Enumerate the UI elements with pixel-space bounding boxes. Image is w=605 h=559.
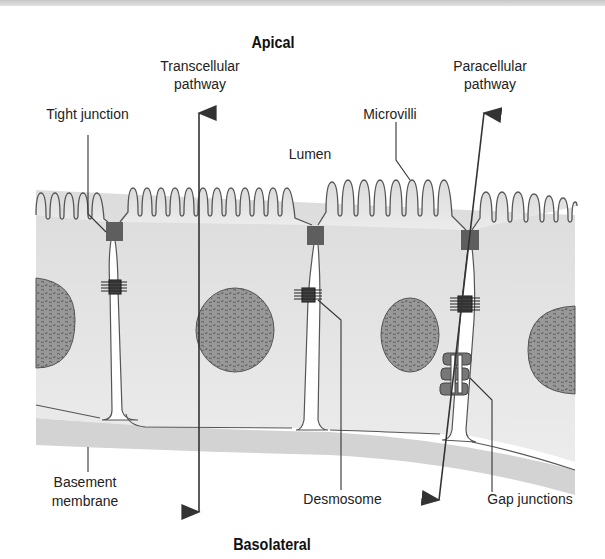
label-paracellular-1: Paracellular	[436, 57, 544, 75]
label-lumen: Lumen	[274, 145, 346, 163]
label-transcellular-1: Transcellular	[146, 57, 254, 75]
label-microvilli: Microvilli	[345, 105, 435, 123]
label-gap-junctions: Gap junctions	[472, 490, 589, 508]
label-basement-2: membrane	[40, 492, 130, 510]
label-basolateral: Basolateral	[218, 536, 326, 554]
label-basement-1: Basement	[40, 473, 130, 491]
label-tight-junction: Tight junction	[36, 105, 140, 123]
label-paracellular-2: pathway	[436, 75, 544, 93]
label-transcellular-2: pathway	[146, 75, 254, 93]
label-desmosome: Desmosome	[295, 490, 390, 508]
label-apical: Apical	[237, 34, 309, 52]
